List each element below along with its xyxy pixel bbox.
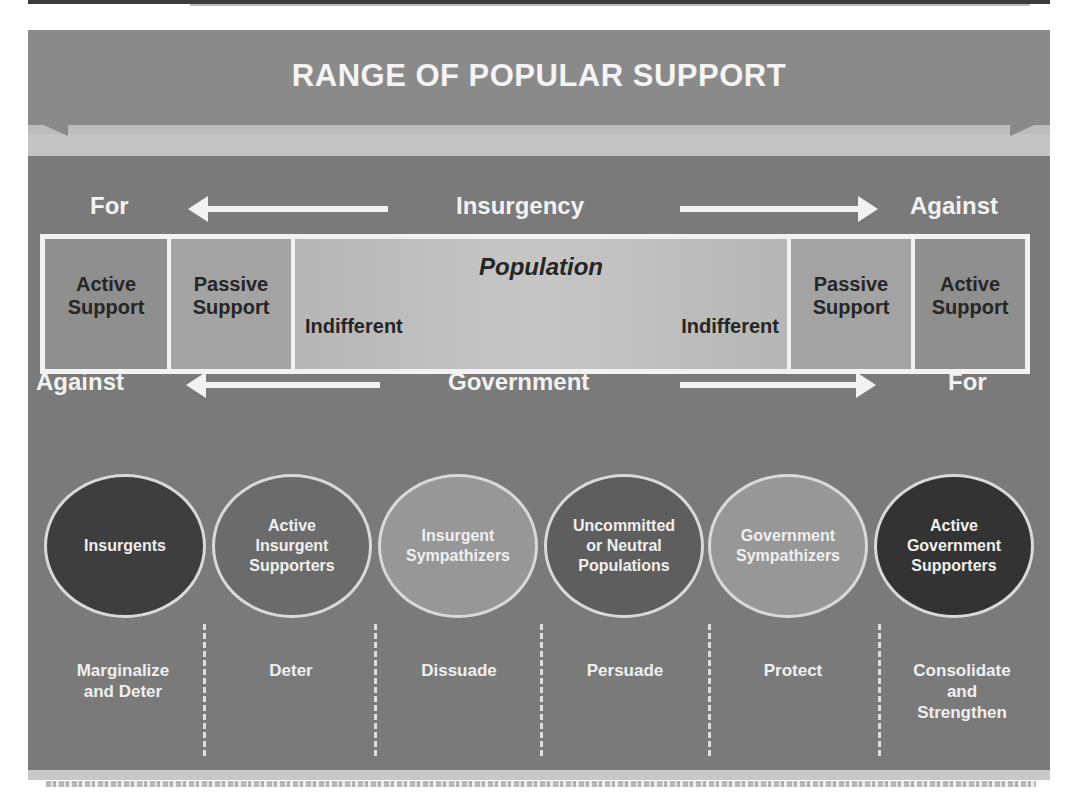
arrow-right-icon [680, 382, 858, 388]
diagram-panel: RANGE OF POPULAR SUPPORT For Insurgency … [28, 30, 1050, 770]
action-label-deter: Deter [212, 660, 370, 681]
population-cell-label: ActiveSupport [45, 273, 167, 319]
group-circle-uncommitted-populations: Uncommittedor NeutralPopulations [544, 474, 704, 618]
insurgency-axis-title: Insurgency [456, 192, 584, 220]
diagram-title: RANGE OF POPULAR SUPPORT [28, 58, 1050, 94]
group-circle-label: ActiveInsurgentSupporters [249, 516, 334, 576]
caption-text-illegible [46, 781, 1036, 787]
indifferent-label-left: Indifferent [305, 315, 403, 338]
column-divider [540, 624, 543, 756]
population-cell-active-support-insurgency: ActiveSupport [45, 239, 167, 369]
action-label-protect: Protect [714, 660, 872, 681]
page-top-rule-faint [190, 4, 1030, 6]
population-cell-passive-support-insurgency: PassiveSupport [171, 239, 291, 369]
government-axis-left-label: Against [36, 368, 124, 396]
population-title: Population [295, 253, 787, 281]
action-label-marginalize-and-deter: Marginalizeand Deter [48, 660, 198, 702]
population-cell-indifferent: Population Indifferent Indifferent [295, 239, 787, 369]
government-axis-title: Government [448, 368, 589, 396]
action-label-dissuade: Dissuade [380, 660, 538, 681]
indifferent-label-right: Indifferent [681, 315, 779, 338]
group-circle-label: GovernmentSympathizers [736, 526, 840, 566]
insurgency-axis: For Insurgency Against [28, 192, 1050, 228]
group-circle-insurgents: Insurgents [44, 474, 206, 618]
population-cell-label: ActiveSupport [915, 273, 1025, 319]
arrow-left-icon [206, 206, 388, 212]
column-divider [878, 624, 881, 756]
insurgency-axis-right-label: Against [910, 192, 998, 220]
group-circle-label: Uncommittedor NeutralPopulations [573, 516, 675, 576]
group-circle-label: InsurgentSympathizers [406, 526, 510, 566]
government-axis-right-label: For [948, 368, 987, 396]
group-circle-label: Insurgents [84, 536, 166, 556]
panel-bottom-strip [28, 770, 1050, 780]
government-axis: Against Government For [28, 368, 1050, 404]
column-divider [203, 624, 206, 756]
action-label-persuade: Persuade [546, 660, 704, 681]
arrow-left-icon [204, 382, 380, 388]
column-divider [708, 624, 711, 756]
arrow-right-icon [680, 206, 860, 212]
title-band-accent-inner [28, 134, 1050, 156]
population-cell-label: PassiveSupport [171, 273, 291, 319]
group-circle-active-insurgent-supporters: ActiveInsurgentSupporters [212, 474, 372, 618]
insurgency-axis-left-label: For [90, 192, 129, 220]
group-circle-government-sympathizers: GovernmentSympathizers [708, 474, 868, 618]
column-divider [374, 624, 377, 756]
population-cell-passive-support-government: PassiveSupport [791, 239, 911, 369]
population-spectrum: ActiveSupport PassiveSupport Population … [40, 234, 1030, 374]
group-circle-label: ActiveGovernmentSupporters [907, 516, 1001, 576]
action-label-consolidate-and-strengthen: ConsolidateandStrengthen [882, 660, 1042, 723]
population-cell-label: PassiveSupport [791, 273, 911, 319]
group-circle-active-government-supporters: ActiveGovernmentSupporters [874, 474, 1034, 618]
group-circle-insurgent-sympathizers: InsurgentSympathizers [378, 474, 538, 618]
population-cell-active-support-government: ActiveSupport [915, 239, 1025, 369]
